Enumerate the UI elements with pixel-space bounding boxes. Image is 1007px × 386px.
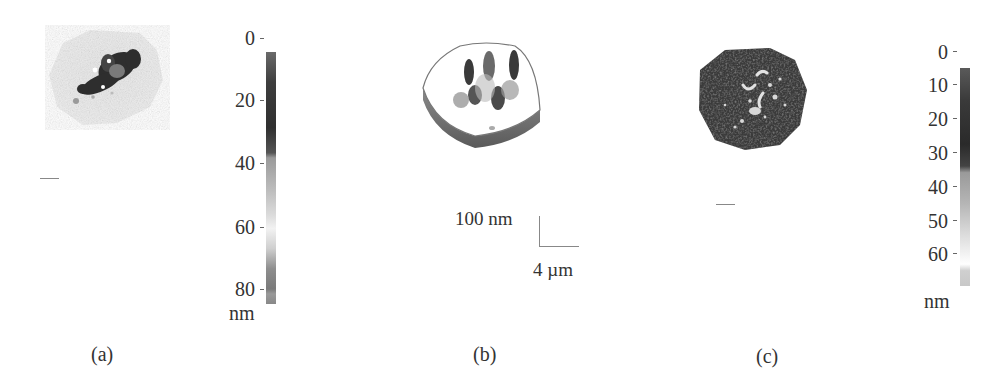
scale-bar-a: [40, 178, 59, 179]
tick-mark: [953, 118, 957, 119]
tick-mark: [260, 163, 264, 164]
z-scale-label: 100 nm: [455, 208, 513, 230]
tick-mark: [953, 186, 957, 187]
xy-scale-label: 4 µm: [533, 259, 573, 281]
colorbar-c-tick: 40: [915, 177, 948, 197]
colorbar-gradient-c: [960, 68, 970, 286]
colorbar-gradient-a: [266, 52, 276, 304]
colorbar-a-tick: 60: [225, 217, 255, 237]
caption-a: (a): [91, 343, 113, 366]
tick-mark: [953, 152, 957, 153]
afm-3d-image-b: [415, 40, 545, 155]
colorbar-c-tick: 0: [915, 42, 948, 62]
afm-image-c: [695, 45, 815, 157]
colorbar-a-unit: nm: [229, 302, 255, 325]
afm-image-a: [45, 25, 170, 130]
tick-mark: [953, 84, 957, 85]
caption-b: (b): [473, 343, 496, 366]
tick-mark: [953, 253, 957, 254]
colorbar-c-tick: 60: [915, 244, 948, 264]
z-axis-line: [539, 216, 540, 246]
colorbar-c-tick: 20: [915, 109, 948, 129]
xy-axis-line: [539, 246, 579, 247]
colorbar-c-tick: 10: [915, 75, 948, 95]
colorbar-a-tick: 20: [225, 90, 255, 110]
tick-mark: [260, 227, 264, 228]
tick-mark: [953, 220, 957, 221]
colorbar-c-tick: 30: [915, 143, 948, 163]
scale-bar-c: [716, 204, 735, 205]
tick-mark: [953, 51, 957, 52]
caption-c: (c): [756, 345, 778, 368]
colorbar-a-tick: 0: [225, 28, 255, 48]
colorbar-c-unit: nm: [924, 290, 950, 313]
tick-mark: [260, 100, 264, 101]
tick-mark: [260, 38, 264, 39]
tick-mark: [260, 289, 264, 290]
colorbar-a-tick: 80: [225, 279, 255, 299]
colorbar-a-tick: 40: [225, 153, 255, 173]
colorbar-c-tick: 50: [915, 211, 948, 231]
